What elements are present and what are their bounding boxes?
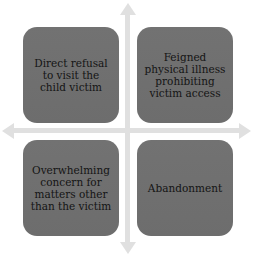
quadrant-label: Overwhelming concern for matters other t… bbox=[27, 164, 115, 212]
quadrant-bottom-left: Overwhelming concern for matters other t… bbox=[23, 140, 119, 236]
arrow-left-icon bbox=[2, 123, 14, 139]
quadrant-label: Direct refusal to visit the child victim bbox=[32, 57, 110, 93]
arrow-down-icon bbox=[120, 242, 136, 254]
quadrant-top-right: Feigned physical illness prohibiting vic… bbox=[137, 27, 233, 123]
quadrant-diagram: Direct refusal to visit the child victim… bbox=[0, 0, 253, 257]
quadrant-bottom-right: Abandonment bbox=[137, 140, 233, 236]
arrow-up-icon bbox=[120, 3, 136, 15]
arrow-right-icon bbox=[239, 123, 251, 139]
quadrant-label: Abandonment bbox=[148, 182, 222, 194]
vertical-axis-line bbox=[125, 8, 130, 249]
quadrant-label: Feigned physical illness prohibiting vic… bbox=[144, 51, 226, 99]
quadrant-top-left: Direct refusal to visit the child victim bbox=[23, 27, 119, 123]
